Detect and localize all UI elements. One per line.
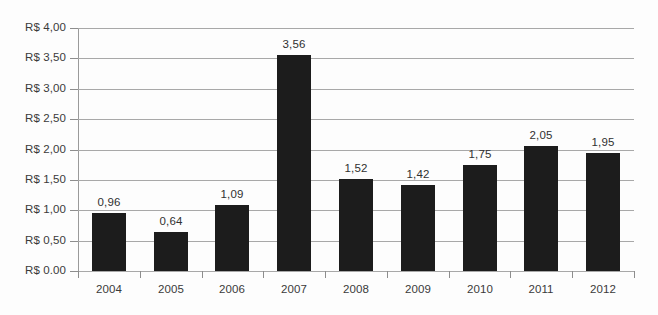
y-axis-tick-label: R$ 3,00 xyxy=(0,82,66,96)
bar-value-label: 1,75 xyxy=(450,148,510,160)
y-axis-tick-label: R$ 2,00 xyxy=(0,143,66,157)
x-axis-category-label: 2006 xyxy=(202,283,262,295)
y-axis-tick-label: R$ 4,00 xyxy=(0,21,66,35)
bar-value-label: 1,09 xyxy=(202,188,262,200)
x-axis-category-label: 2004 xyxy=(79,283,139,295)
y-axis-tick-label: R$ 0,50 xyxy=(0,234,66,248)
y-axis-tick-label-text: R$ 4,00 xyxy=(2,21,66,33)
x-axis-category-label: 2011 xyxy=(511,283,571,295)
y-axis-tick-label: R$ 2,50 xyxy=(0,112,66,126)
x-axis-category-label: 2009 xyxy=(388,283,448,295)
x-axis-category-label: 2005 xyxy=(141,283,201,295)
y-axis-tick-label-text: R$ 2,50 xyxy=(2,112,66,124)
y-axis-tick-label-text: R$ 2,00 xyxy=(2,143,66,155)
y-axis-tick-label-text: R$ 0.00 xyxy=(2,264,66,276)
y-axis-tick-label-text: R$ 1,50 xyxy=(2,173,66,185)
y-axis-tick-label-text: R$ 3,00 xyxy=(2,82,66,94)
x-axis-category-label: 2010 xyxy=(450,283,510,295)
y-axis-tick-label-text: R$ 1,00 xyxy=(2,203,66,215)
y-axis-tick-label: R$ 0.00 xyxy=(0,264,66,278)
bar-value-label: 0,64 xyxy=(141,215,201,227)
chart-labels-layer: R$ 4,00R$ 3,50R$ 3,00R$ 2,50R$ 2,00R$ 1,… xyxy=(0,0,658,315)
y-axis-tick-label: R$ 3,50 xyxy=(0,51,66,65)
y-axis-tick-label-text: R$ 0,50 xyxy=(2,234,66,246)
bar-value-label: 1,52 xyxy=(326,162,386,174)
bar-value-label: 1,42 xyxy=(388,168,448,180)
x-axis-category-label: 2008 xyxy=(326,283,386,295)
y-axis-tick-label: R$ 1,00 xyxy=(0,203,66,217)
x-axis-category-label: 2007 xyxy=(264,283,324,295)
bar-value-label: 3,56 xyxy=(264,38,324,50)
y-axis-tick-label-text: R$ 3,50 xyxy=(2,51,66,63)
bar-value-label: 1,95 xyxy=(573,136,633,148)
bar-value-label: 2,05 xyxy=(511,129,571,141)
bar-value-label: 0,96 xyxy=(79,196,139,208)
y-axis-tick-label: R$ 1,50 xyxy=(0,173,66,187)
x-axis-category-label: 2012 xyxy=(573,283,633,295)
bar-chart: R$ 4,00R$ 3,50R$ 3,00R$ 2,50R$ 2,00R$ 1,… xyxy=(0,0,658,315)
